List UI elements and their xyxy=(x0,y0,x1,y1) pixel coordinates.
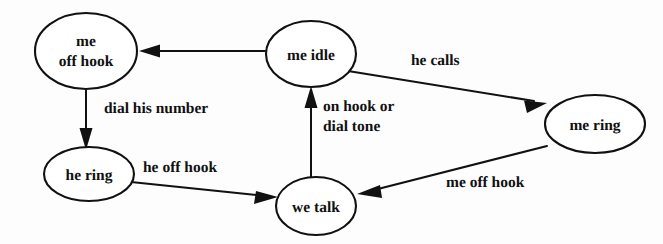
edge-label-dial-tone-line2: dial tone xyxy=(323,118,380,135)
edge-me-idle-to-me-off-hook xyxy=(139,45,265,58)
state-node-me-off-hook[interactable]: me off hook xyxy=(35,13,137,89)
state-node-label-line1: me idle xyxy=(287,47,335,64)
state-node-we-talk[interactable]: we talk xyxy=(276,177,356,235)
state-node-label-line1: me xyxy=(76,33,96,50)
edge-we-talk-to-me-idle xyxy=(305,86,318,177)
edge-line xyxy=(348,71,534,101)
edge-label-me-off-hook: me off hook xyxy=(446,174,525,191)
state-node-label-line1: he ring xyxy=(66,167,113,184)
edge-label-dial-his-number: dial his number xyxy=(104,100,208,117)
edge-line xyxy=(131,182,266,196)
state-node-label-line1: me ring xyxy=(569,117,620,134)
state-node-ellipse xyxy=(35,13,137,89)
arrowhead-icon xyxy=(357,185,382,198)
arrowhead-icon xyxy=(305,86,318,108)
edge-label-he-off-hook: he off hook xyxy=(143,159,217,176)
state-node-me-ring[interactable]: me ring xyxy=(545,95,645,153)
edge-me-off-hook-to-he-ring xyxy=(80,89,93,150)
state-node-he-ring[interactable]: he ring xyxy=(44,147,134,201)
state-diagram-canvas: me off hook me idle me ring he ring we t… xyxy=(0,0,663,244)
edge-label-he-calls: he calls xyxy=(411,52,460,69)
arrowhead-icon xyxy=(524,101,547,114)
state-node-me-idle[interactable]: me idle xyxy=(266,21,356,87)
arrowhead-icon xyxy=(254,191,278,204)
state-node-label-line1: we talk xyxy=(292,199,340,216)
arrowhead-icon xyxy=(139,45,160,58)
state-machine-graphic: me off hook me idle me ring he ring we t… xyxy=(0,0,663,244)
edge-he-ring-to-we-talk xyxy=(131,182,278,204)
state-node-label-line2: off hook xyxy=(59,53,114,70)
edge-label-on-hook-or-line1: on hook or xyxy=(323,98,395,115)
